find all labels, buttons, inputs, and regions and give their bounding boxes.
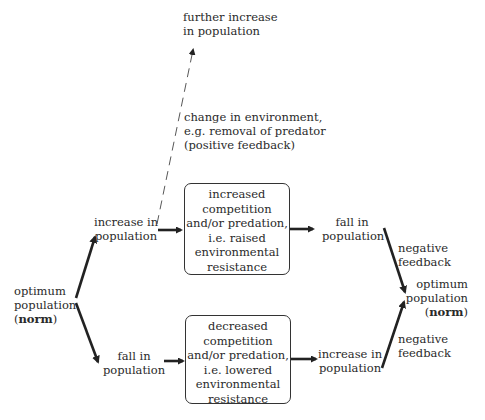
label-negative-feedback-lower: negative feedback — [398, 332, 451, 360]
box-text: resistance — [185, 260, 289, 275]
node-text: optimum — [405, 277, 468, 291]
label-text: e.g. removal of predator — [184, 124, 326, 138]
box-text: i.e. raised — [185, 231, 289, 246]
label-text: feedback — [398, 346, 451, 360]
node-text: in population — [183, 24, 278, 38]
norm-label: norm — [429, 305, 463, 319]
box-decreased-competition: decreased competition and/or predation, … — [185, 315, 291, 404]
label-text: (positive feedback) — [184, 138, 326, 152]
node-fall-lower: fall in population — [102, 349, 166, 377]
node-fall-upper: fall in population — [322, 215, 382, 243]
label-change-in-environment: change in environment, e.g. removal of p… — [184, 110, 326, 152]
box-text: environmental — [186, 377, 290, 392]
arrow-optimum-to-fall — [76, 303, 98, 362]
node-further-increase: further increase in population — [183, 10, 278, 38]
box-text: and/or predation, — [185, 216, 289, 231]
box-text: i.e. lowered — [186, 363, 290, 378]
node-text: population — [14, 298, 76, 312]
label-text: negative — [398, 332, 451, 346]
node-increase-upper: increase in population — [94, 215, 158, 243]
node-norm-line: (norm) — [405, 305, 468, 319]
node-text: optimum — [14, 284, 76, 298]
node-optimum-left: optimum population (norm) — [14, 284, 76, 326]
box-text: decreased — [186, 319, 290, 334]
box-text: competition — [185, 202, 289, 217]
box-text: competition — [186, 334, 290, 349]
node-text: population — [405, 291, 468, 305]
node-text: increase in — [318, 347, 382, 361]
node-norm-line: (norm) — [14, 312, 76, 326]
node-text: increase in — [94, 215, 158, 229]
node-text: further increase — [183, 10, 278, 24]
label-text: change in environment, — [184, 110, 326, 124]
node-text: fall in — [102, 349, 166, 363]
node-text: population — [94, 229, 158, 243]
box-text: resistance — [186, 392, 290, 407]
label-negative-feedback-upper: negative feedback — [398, 241, 451, 269]
label-text: negative — [398, 241, 451, 255]
box-text: and/or predation, — [186, 348, 290, 363]
arrow-optimum-to-increase — [76, 237, 95, 298]
node-text: population — [322, 229, 382, 243]
label-text: feedback — [398, 255, 451, 269]
norm-label: norm — [19, 312, 53, 326]
box-text: increased — [185, 187, 289, 202]
box-text: environmental — [185, 245, 289, 260]
node-text: population — [102, 363, 166, 377]
node-optimum-right: optimum population (norm) — [405, 277, 468, 319]
node-text: population — [318, 361, 382, 375]
node-text: fall in — [322, 215, 382, 229]
node-increase-lower: increase in population — [318, 347, 382, 375]
box-increased-competition: increased competition and/or predation, … — [184, 183, 290, 275]
